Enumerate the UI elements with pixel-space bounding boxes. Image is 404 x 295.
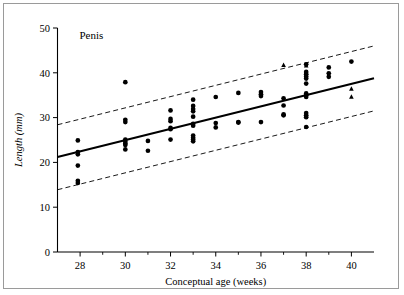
data-point-triangle [349,86,354,90]
y-tick-label: 20 [40,157,51,168]
data-point-circle [191,123,196,128]
data-point-circle [281,103,286,108]
data-point-circle [75,181,80,186]
upper-prediction-band [58,46,375,125]
axes-group [53,28,374,257]
y-tick-label: 50 [40,23,51,34]
data-point-circle [304,95,309,100]
data-point-circle [146,139,151,144]
data-point-circle [123,120,128,125]
x-tick-label: 32 [165,260,176,271]
regression-line-group [58,78,375,157]
scatter-plot-svg: 0102030405028303234363840Conceptual age … [0,0,404,295]
chart-figure: 0102030405028303234363840Conceptual age … [0,0,404,295]
data-point-circle [191,114,196,119]
data-point-circle [236,91,241,96]
y-tick-label: 40 [40,68,51,79]
data-point-circle [326,74,331,79]
data-point-circle [75,138,80,143]
x-tick-label: 40 [346,260,357,271]
data-point-circle [146,148,151,153]
data-point-circle [75,163,80,168]
data-point-circle [123,147,128,152]
data-point-circle [168,108,173,113]
data-points-group [75,59,353,185]
data-point-circle [191,97,196,102]
data-point-circle [191,109,196,114]
x-axis-title: Conceptual age (weeks) [165,276,266,288]
data-point-triangle [349,94,354,98]
x-tick-label: 36 [256,260,267,271]
data-point-circle [168,137,173,142]
data-point-circle [259,120,264,125]
x-tick-label: 28 [75,260,86,271]
data-point-circle [168,127,173,132]
data-point-circle [236,120,241,125]
data-point-circle [304,81,309,86]
data-point-circle [304,76,309,81]
panel-title: Penis [80,29,104,41]
x-tick-label: 34 [211,260,222,271]
data-point-circle [349,59,354,64]
data-point-circle [168,119,173,124]
x-tick-label: 38 [301,260,312,271]
data-point-circle [304,125,309,130]
data-point-circle [281,96,286,101]
y-tick-label: 0 [45,247,50,258]
y-tick-label: 30 [40,112,51,123]
data-point-circle [123,143,128,148]
data-point-circle [75,152,80,157]
data-point-circle [191,139,196,144]
regression-line [58,78,375,157]
data-point-circle [326,65,331,70]
y-axis-title: Length (mm) [13,113,25,168]
data-point-circle [123,80,128,85]
data-point-circle [259,94,264,99]
y-tick-label: 10 [40,202,51,213]
data-point-circle [213,125,218,130]
data-point-circle [213,121,218,126]
data-point-triangle [281,62,286,66]
data-point-circle [281,113,286,118]
x-tick-label: 30 [120,260,131,271]
data-point-circle [304,115,309,120]
data-point-circle [213,95,218,100]
